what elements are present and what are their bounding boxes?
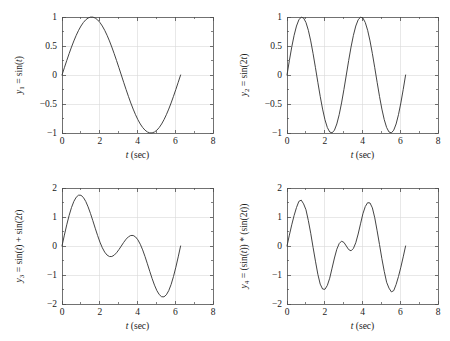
- y-tick-label: 1: [52, 12, 57, 22]
- y-tick-label: −0.5: [265, 99, 282, 109]
- subplot-panel-bottom-right: 02468−2−1012t (sec)y4 = (sin(t)) * (sin(…: [225, 171, 450, 341]
- subplot-panel-bottom-left: 02468−2−1012t (sec)y3 = sin(t) + sin(2t): [0, 171, 225, 341]
- y-axis-title: y1 = sin(t): [14, 56, 26, 95]
- y-axis-title: y4 = (sin(t)) * (sin(2t)): [239, 204, 251, 290]
- y-tick-label: 0.5: [270, 41, 282, 51]
- y-tick-label: −2: [272, 299, 282, 309]
- y-tick-label: −1: [47, 128, 57, 138]
- x-tick-label: 8: [436, 307, 441, 317]
- subplot-panel-top-left: 02468−1−0.500.51t (sec)y1 = sin(t): [0, 0, 225, 170]
- x-axis-title: t (sec): [351, 150, 374, 161]
- y-tick-label: 1: [277, 12, 282, 22]
- y-tick-label: 0: [277, 70, 282, 80]
- figure-canvas: 02468−1−0.500.51t (sec)y1 = sin(t) 02468…: [0, 0, 450, 341]
- x-tick-label: 4: [360, 136, 365, 146]
- subplot-svg-2: 02468−1−0.500.51t (sec)y2 = sin(2t): [225, 0, 450, 170]
- y-tick-label: −1: [272, 270, 282, 280]
- y-tick-label: −1: [47, 270, 57, 280]
- x-tick-label: 6: [173, 136, 178, 146]
- x-tick-label: 0: [60, 307, 65, 317]
- gridlines: [62, 188, 213, 304]
- tick-labels: 02468−2−1012: [272, 183, 441, 317]
- x-tick-label: 6: [173, 307, 178, 317]
- subplot-panel-top-right: 02468−1−0.500.51t (sec)y2 = sin(2t): [225, 0, 450, 170]
- y-tick-label: −1: [272, 128, 282, 138]
- y-axis-title: y3 = sin(t) + sin(2t): [14, 210, 26, 284]
- x-tick-label: 4: [135, 136, 140, 146]
- tick-labels: 02468−1−0.500.51: [40, 12, 216, 146]
- x-tick-label: 2: [97, 307, 102, 317]
- y-tick-label: 1: [277, 212, 282, 222]
- x-axis-title: t (sec): [126, 321, 149, 332]
- y-tick-label: 0: [277, 241, 282, 251]
- x-tick-label: 8: [436, 136, 441, 146]
- x-tick-label: 2: [322, 307, 327, 317]
- y-tick-label: −0.5: [40, 99, 57, 109]
- tick-labels: 02468−1−0.500.51: [265, 12, 441, 146]
- x-tick-label: 4: [360, 307, 365, 317]
- x-tick-label: 8: [211, 307, 216, 317]
- tick-labels: 02468−2−1012: [47, 183, 216, 317]
- y-tick-label: 0.5: [45, 41, 57, 51]
- y-tick-label: 2: [277, 183, 282, 193]
- x-tick-label: 0: [285, 136, 290, 146]
- x-axis-title: t (sec): [126, 150, 149, 161]
- subplot-svg-1: 02468−1−0.500.51t (sec)y1 = sin(t): [0, 0, 225, 170]
- gridlines: [62, 17, 213, 133]
- x-tick-label: 2: [322, 136, 327, 146]
- y-tick-label: 2: [52, 183, 57, 193]
- y-tick-label: 1: [52, 212, 57, 222]
- x-tick-label: 8: [211, 136, 216, 146]
- x-tick-label: 6: [398, 307, 403, 317]
- x-axis-title: t (sec): [351, 321, 374, 332]
- x-tick-label: 4: [135, 307, 140, 317]
- subplot-svg-3: 02468−2−1012t (sec)y3 = sin(t) + sin(2t): [0, 171, 225, 341]
- x-tick-label: 0: [60, 136, 65, 146]
- x-tick-label: 6: [398, 136, 403, 146]
- y-tick-label: 0: [52, 241, 57, 251]
- gridlines: [287, 188, 438, 304]
- y-tick-label: −2: [47, 299, 57, 309]
- y-axis-title: y2 = sin(2t): [239, 54, 251, 98]
- x-tick-label: 2: [97, 136, 102, 146]
- y-tick-label: 0: [52, 70, 57, 80]
- x-tick-label: 0: [285, 307, 290, 317]
- subplot-svg-4: 02468−2−1012t (sec)y4 = (sin(t)) * (sin(…: [225, 171, 450, 341]
